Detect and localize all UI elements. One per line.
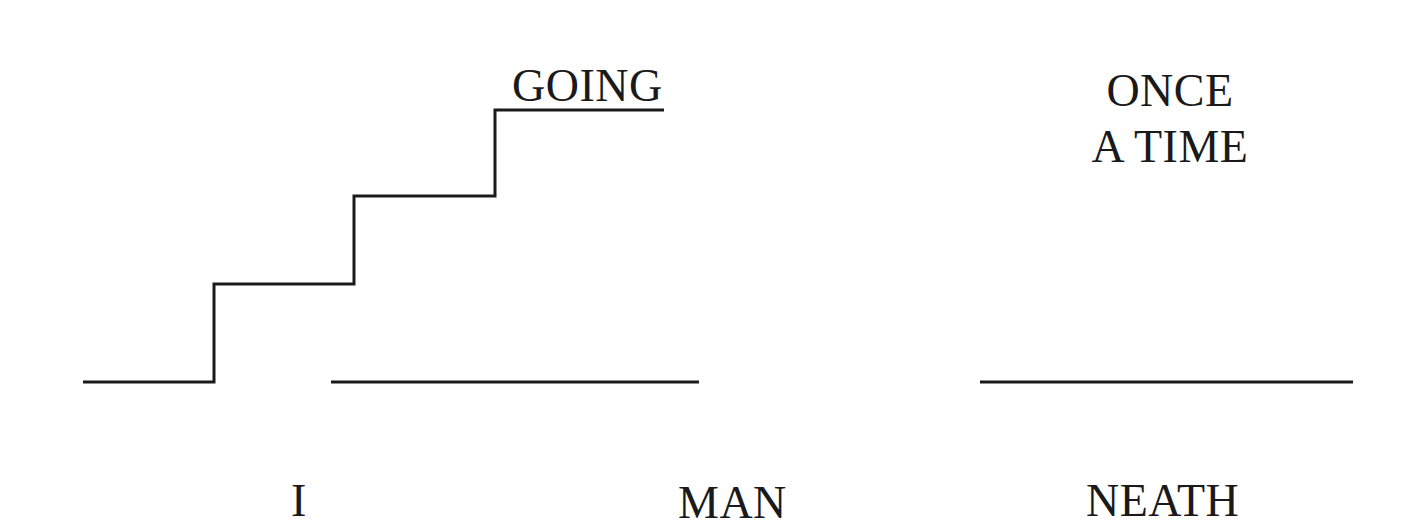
staircase-line (83, 110, 664, 382)
word-going: GOING (512, 63, 663, 109)
word-man: MAN (678, 480, 787, 526)
word-a-time: A TIME (1060, 119, 1280, 175)
rebus-canvas: GOING I MAN ONCE A TIME NEATH (0, 0, 1403, 526)
word-i: I (291, 478, 307, 524)
word-once: ONCE (1060, 63, 1280, 119)
word-once-a-time: ONCE A TIME (1060, 63, 1280, 175)
word-neath: NEATH (1086, 478, 1239, 524)
